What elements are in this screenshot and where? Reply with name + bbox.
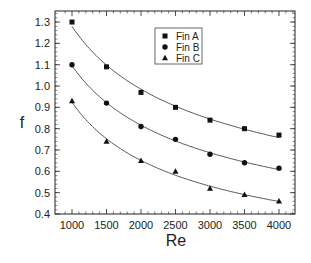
x-tick-label: 1500 (94, 219, 118, 231)
legend: Fin AFin BFin C (155, 28, 202, 64)
data-point-fin-a (139, 90, 144, 95)
y-tick-labels: 0.40.50.60.70.80.91.01.11.21.3 (35, 16, 50, 220)
x-tick-label: 3500 (232, 219, 256, 231)
y-axis-title: f (20, 114, 25, 131)
x-axis-title: Re (166, 232, 187, 249)
data-point-fin-b (69, 62, 74, 67)
y-tick-label: 0.4 (35, 208, 50, 220)
y-tick-label: 1.1 (35, 59, 50, 71)
x-tick-label: 2000 (129, 219, 153, 231)
fit-curve-fin-b (72, 66, 279, 170)
data-point-fin-b (242, 160, 247, 165)
y-tick-label: 0.5 (35, 187, 50, 199)
x-tick-label: 3000 (198, 219, 222, 231)
x-tick-labels: 1000150020002500300035004000 (60, 219, 291, 231)
data-point-fin-b (207, 152, 212, 157)
legend-marker-fin-b (162, 44, 167, 49)
y-tick-label: 0.6 (35, 165, 50, 177)
y-tick-label: 1.0 (35, 80, 50, 92)
y-tick-label: 0.9 (35, 101, 50, 113)
data-point-fin-c (138, 157, 144, 163)
legend-label: Fin B (176, 42, 200, 53)
y-tick-label: 1.3 (35, 16, 50, 28)
y-tick-label: 0.7 (35, 144, 50, 156)
legend-label: Fin C (176, 53, 200, 64)
y-tick-label: 1.2 (35, 37, 50, 49)
chart: 1000150020002500300035004000 0.40.50.60.… (0, 0, 311, 263)
data-point-fin-b (173, 137, 178, 142)
data-point-fin-c (69, 98, 75, 104)
x-tick-label: 4000 (267, 219, 291, 231)
fit-curve-fin-c (72, 102, 279, 201)
legend-marker-fin-a (163, 34, 168, 39)
data-point-fin-a (70, 20, 75, 25)
data-point-fin-b (138, 124, 143, 129)
data-point-fin-a (208, 118, 213, 123)
data-point-fin-a (242, 126, 247, 131)
data-point-fin-c (173, 168, 179, 174)
x-tick-label: 2500 (163, 219, 187, 231)
data-point-fin-c (104, 138, 110, 144)
data-point-fin-a (277, 133, 282, 138)
legend-label: Fin A (176, 31, 199, 42)
y-tick-label: 0.8 (35, 123, 50, 135)
data-point-fin-b (104, 100, 109, 105)
data-point-fin-a (173, 105, 178, 110)
data-point-fin-a (104, 64, 109, 69)
data-point-fin-b (276, 165, 281, 170)
x-tick-label: 1000 (60, 219, 84, 231)
